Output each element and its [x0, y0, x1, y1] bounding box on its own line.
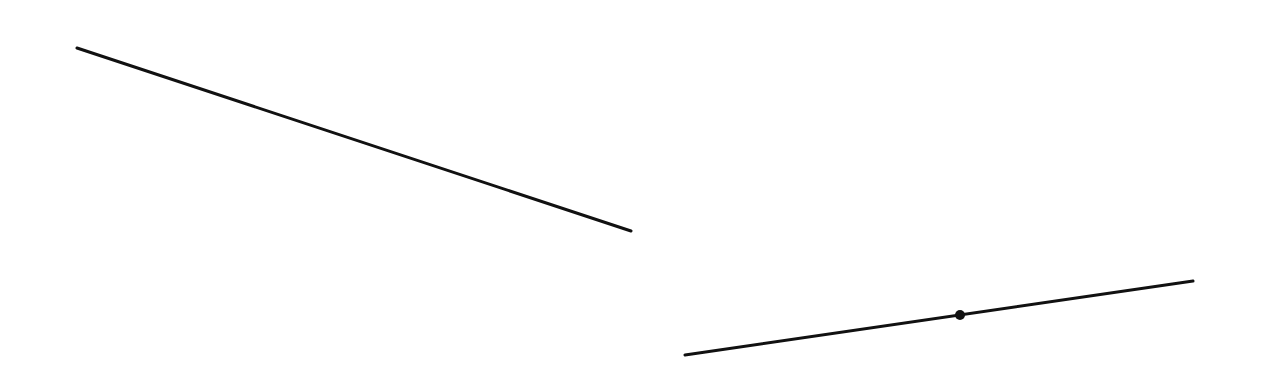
background: [0, 0, 1264, 379]
diagram-svg: [0, 0, 1264, 379]
diagram-canvas: [0, 0, 1264, 379]
point-marker: [955, 310, 965, 320]
